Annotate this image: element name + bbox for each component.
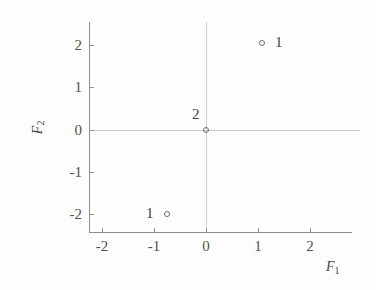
y-axis-title-subscript: 2: [35, 121, 46, 126]
y-tick-mark: [89, 172, 94, 173]
x-tick-mark: [258, 228, 259, 233]
y-tick-label: 1: [46, 78, 82, 96]
y-axis-title: F2: [30, 110, 47, 144]
data-point-marker: [259, 40, 265, 46]
y-axis-line: [89, 22, 90, 233]
y-tick-mark: [89, 130, 94, 131]
x-axis-line: [89, 232, 352, 233]
y-tick-label: -2: [46, 205, 82, 223]
x-tick-label: 0: [186, 237, 226, 255]
y-tick-label: -1: [46, 163, 82, 181]
x-tick-mark: [206, 228, 207, 233]
x-tick-mark: [154, 228, 155, 233]
y-tick-label: 0: [46, 121, 82, 139]
y-tick-mark: [89, 87, 94, 88]
x-tick-mark: [102, 228, 103, 233]
data-point-label: 1: [275, 34, 283, 50]
x-tick-label: 1: [238, 237, 278, 255]
data-point-label: 1: [146, 205, 154, 221]
x-axis-title: F1: [326, 259, 340, 276]
x-axis-title-subscript: 1: [335, 265, 340, 276]
horizontal-zero-gridline: [89, 130, 360, 131]
data-point-label: 2: [192, 106, 200, 122]
x-tick-label: 2: [290, 237, 330, 255]
scatter-plot-figure: -2 -1 0 1 2 2 1 0 -1 -2 F1 F2 1 2 1: [0, 0, 376, 290]
data-point-marker: [164, 211, 170, 217]
data-point-marker: [203, 127, 209, 133]
y-axis-title-base: F: [30, 126, 45, 135]
x-tick-label: -1: [134, 237, 174, 255]
x-axis-title-base: F: [326, 259, 335, 274]
y-tick-label: 2: [46, 36, 82, 54]
y-tick-mark: [89, 214, 94, 215]
x-tick-mark: [310, 228, 311, 233]
y-tick-mark: [89, 45, 94, 46]
x-tick-label: -2: [82, 237, 122, 255]
